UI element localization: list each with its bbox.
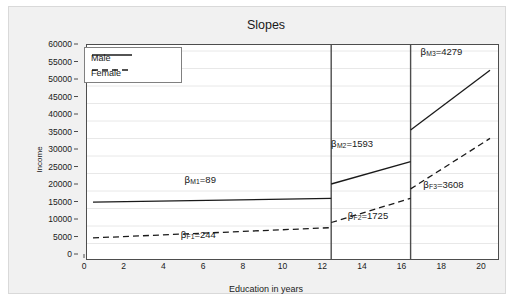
beta-m3-subscript: M3 [426, 50, 435, 57]
beta-m1: βM1=89 [184, 174, 216, 185]
legend-item-female: Female [91, 66, 121, 80]
knot-lines [331, 45, 410, 259]
beta-m2-subscript: M2 [337, 142, 346, 149]
beta-f1: βF1=244 [180, 229, 215, 240]
beta-f2-subscript: F2 [354, 214, 362, 221]
beta-m3-value: =4279 [436, 46, 463, 57]
beta-f3: βF3=3608 [423, 179, 464, 190]
beta-m1-value: =89 [200, 174, 216, 185]
beta-f3-value: =3608 [437, 179, 464, 190]
beta-f1-subscript: F1 [186, 233, 194, 240]
chart-canvas: Slopes Education in years Income 0500010… [8, 6, 506, 294]
beta-f1-value: =244 [194, 229, 215, 240]
legend-item-male: Male [91, 51, 111, 65]
legend-key-dashed-icon [91, 66, 133, 74]
data-series [93, 70, 490, 238]
beta-m2: βM2=1593 [331, 138, 373, 149]
beta-f2: βF2=1725 [347, 210, 388, 221]
figure: Slopes Education in years Income 0500010… [0, 0, 514, 303]
beta-m3: βM3=4279 [420, 46, 462, 57]
legend-box: Male Female [84, 47, 182, 83]
beta-f3-subscript: F3 [429, 183, 437, 190]
beta-f2-value: =1725 [362, 210, 389, 221]
legend-key-solid-icon [91, 51, 133, 59]
beta-m2-value: =1593 [346, 138, 373, 149]
beta-m1-subscript: M1 [190, 178, 199, 185]
